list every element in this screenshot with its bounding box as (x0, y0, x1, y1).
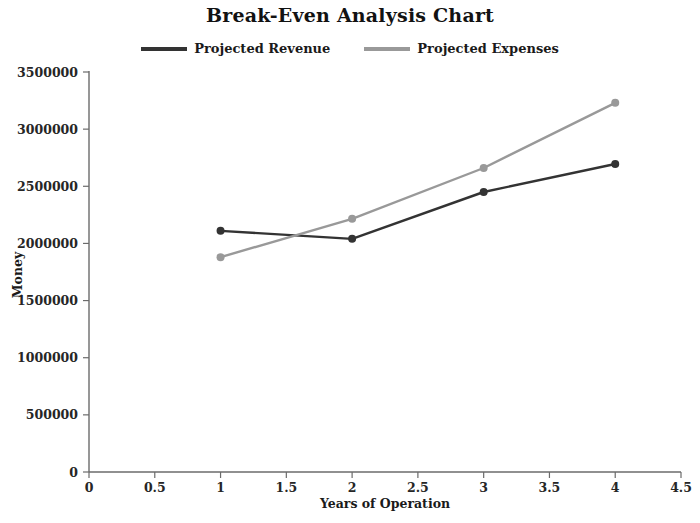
break-even-chart: Break-Even Analysis Chart Projected Reve… (0, 0, 700, 523)
data-point-marker (217, 227, 225, 235)
data-point-marker (480, 164, 488, 172)
y-axis-tick-label: 1000000 (17, 350, 78, 365)
x-axis-tick-label: 4.5 (670, 480, 692, 495)
x-axis-tick-label: 1.5 (275, 480, 297, 495)
data-point-marker (348, 235, 356, 243)
x-axis-tick-label: 3 (479, 480, 488, 495)
data-series-group (217, 99, 620, 261)
y-axis-tick-label: 2500000 (17, 179, 78, 194)
y-axis-tick-label: 2000000 (17, 236, 78, 251)
data-point-marker (611, 99, 619, 107)
data-point-marker (348, 215, 356, 223)
x-axis-tick-label: 2.5 (407, 480, 429, 495)
plot-area: 0500000100000015000002000000250000030000… (0, 0, 700, 523)
x-axis-title: Years of Operation (319, 496, 450, 511)
y-axis-tick-label: 3000000 (17, 122, 78, 137)
data-point-marker (480, 188, 488, 196)
y-axis-tick-label: 1500000 (17, 293, 78, 308)
y-axis-tick-label: 500000 (26, 407, 78, 422)
y-axis-tick-label: 0 (69, 465, 78, 480)
series-line (221, 164, 616, 239)
x-axis-tick-label: 0 (85, 480, 94, 495)
y-axis-title: Money (10, 251, 25, 298)
x-axis-tick-label: 4 (611, 480, 620, 495)
data-point-marker (217, 253, 225, 261)
data-point-marker (611, 160, 619, 168)
x-axis-tick-label: 2 (348, 480, 357, 495)
x-axis-tick-label: 3.5 (539, 480, 561, 495)
x-axis-tick-label: 1 (216, 480, 225, 495)
y-axis: 0500000100000015000002000000250000030000… (17, 65, 89, 480)
x-axis: 00.511.522.533.544.5 (85, 472, 692, 495)
y-axis-tick-label: 3500000 (17, 65, 78, 80)
x-axis-tick-label: 0.5 (144, 480, 166, 495)
